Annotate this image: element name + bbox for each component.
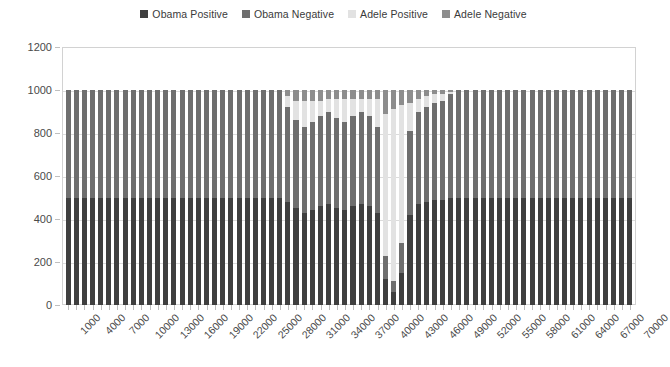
stacked-bar[interactable] [375, 47, 380, 305]
stacked-bar[interactable] [578, 47, 583, 305]
bar-slot[interactable] [259, 47, 267, 305]
stacked-bar[interactable] [407, 47, 412, 305]
bar-slot[interactable] [202, 47, 210, 305]
stacked-bar[interactable] [204, 47, 209, 305]
stacked-bar[interactable] [603, 47, 608, 305]
stacked-bar[interactable] [188, 47, 193, 305]
stacked-bar[interactable] [448, 47, 453, 305]
bar-slot[interactable] [626, 47, 634, 305]
stacked-bar[interactable] [139, 47, 144, 305]
bar-slot[interactable] [593, 47, 601, 305]
bar-slot[interactable] [373, 47, 381, 305]
stacked-bar[interactable] [326, 47, 331, 305]
stacked-bar[interactable] [342, 47, 347, 305]
bar-slot[interactable] [414, 47, 422, 305]
stacked-bar[interactable] [82, 47, 87, 305]
stacked-bar[interactable] [212, 47, 217, 305]
stacked-bar[interactable] [456, 47, 461, 305]
bar-slot[interactable] [569, 47, 577, 305]
stacked-bar[interactable] [489, 47, 494, 305]
bar-slot[interactable] [113, 47, 121, 305]
bar-slot[interactable] [512, 47, 520, 305]
stacked-bar[interactable] [155, 47, 160, 305]
bar-slot[interactable] [129, 47, 137, 305]
bar-slot[interactable] [398, 47, 406, 305]
stacked-bar[interactable] [432, 47, 437, 305]
stacked-bar[interactable] [180, 47, 185, 305]
bar-slot[interactable] [422, 47, 430, 305]
bar-slot[interactable] [390, 47, 398, 305]
stacked-bar[interactable] [106, 47, 111, 305]
stacked-bar[interactable] [505, 47, 510, 305]
bar-slot[interactable] [357, 47, 365, 305]
bar-slot[interactable] [308, 47, 316, 305]
bar-slot[interactable] [243, 47, 251, 305]
stacked-bar[interactable] [521, 47, 526, 305]
stacked-bar[interactable] [123, 47, 128, 305]
stacked-bar[interactable] [570, 47, 575, 305]
bar-slot[interactable] [97, 47, 105, 305]
bar-slot[interactable] [601, 47, 609, 305]
bar-slot[interactable] [618, 47, 626, 305]
legend-item[interactable]: Adele Negative [442, 8, 527, 20]
stacked-bar[interactable] [595, 47, 600, 305]
stacked-bar[interactable] [554, 47, 559, 305]
stacked-bar[interactable] [228, 47, 233, 305]
bar-slot[interactable] [552, 47, 560, 305]
bar-slot[interactable] [520, 47, 528, 305]
bar-slot[interactable] [365, 47, 373, 305]
bar-slot[interactable] [561, 47, 569, 305]
bar-slot[interactable] [333, 47, 341, 305]
stacked-bar[interactable] [220, 47, 225, 305]
bar-slot[interactable] [170, 47, 178, 305]
bar-slot[interactable] [121, 47, 129, 305]
bar-slot[interactable] [186, 47, 194, 305]
stacked-bar[interactable] [497, 47, 502, 305]
bar-slot[interactable] [577, 47, 585, 305]
stacked-bar[interactable] [318, 47, 323, 305]
stacked-bar[interactable] [481, 47, 486, 305]
bar-slot[interactable] [528, 47, 536, 305]
stacked-bar[interactable] [587, 47, 592, 305]
bar-slot[interactable] [64, 47, 72, 305]
bar-slot[interactable] [211, 47, 219, 305]
stacked-bar[interactable] [293, 47, 298, 305]
stacked-bar[interactable] [538, 47, 543, 305]
stacked-bar[interactable] [619, 47, 624, 305]
bar-slot[interactable] [609, 47, 617, 305]
bar-slot[interactable] [88, 47, 96, 305]
bar-slot[interactable] [292, 47, 300, 305]
stacked-bar[interactable] [359, 47, 364, 305]
stacked-bar[interactable] [546, 47, 551, 305]
bar-slot[interactable] [544, 47, 552, 305]
bar-slot[interactable] [80, 47, 88, 305]
bar-slot[interactable] [495, 47, 503, 305]
bar-slot[interactable] [455, 47, 463, 305]
bar-slot[interactable] [487, 47, 495, 305]
stacked-bar[interactable] [399, 47, 404, 305]
stacked-bar[interactable] [302, 47, 307, 305]
stacked-bar[interactable] [131, 47, 136, 305]
stacked-bar[interactable] [464, 47, 469, 305]
stacked-bar[interactable] [391, 47, 396, 305]
stacked-bar[interactable] [66, 47, 71, 305]
bar-slot[interactable] [471, 47, 479, 305]
bar-slot[interactable] [72, 47, 80, 305]
stacked-bar[interactable] [269, 47, 274, 305]
stacked-bar[interactable] [611, 47, 616, 305]
stacked-bar[interactable] [245, 47, 250, 305]
bar-slot[interactable] [406, 47, 414, 305]
bar-slot[interactable] [300, 47, 308, 305]
bar-slot[interactable] [235, 47, 243, 305]
bar-slot[interactable] [194, 47, 202, 305]
stacked-bar[interactable] [310, 47, 315, 305]
stacked-bar[interactable] [114, 47, 119, 305]
stacked-bar[interactable] [147, 47, 152, 305]
stacked-bar[interactable] [416, 47, 421, 305]
legend-item[interactable]: Obama Positive [140, 8, 228, 20]
stacked-bar[interactable] [261, 47, 266, 305]
bar-slot[interactable] [178, 47, 186, 305]
stacked-bar[interactable] [424, 47, 429, 305]
stacked-bar[interactable] [163, 47, 168, 305]
stacked-bar[interactable] [367, 47, 372, 305]
